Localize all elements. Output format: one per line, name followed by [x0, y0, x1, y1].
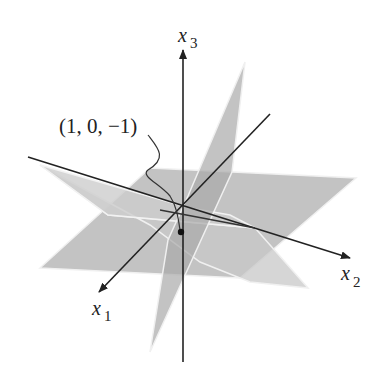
intersection-point: [178, 229, 184, 235]
x1-subscript: 1: [104, 308, 112, 324]
point-label: (1, 0, −1): [59, 114, 137, 138]
x2-label: x: [340, 262, 350, 284]
x3-subscript: 3: [190, 35, 198, 51]
x3-label: x: [177, 24, 187, 46]
x1-label: x: [91, 297, 101, 319]
x2-subscript: 2: [353, 274, 361, 290]
three-planes-diagram: (1, 0, −1) x 3 x 2 x 1: [0, 0, 386, 376]
